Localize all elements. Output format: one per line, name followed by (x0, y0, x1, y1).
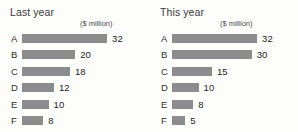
category-label: C (158, 67, 172, 77)
bar-value-label: 8 (198, 100, 203, 110)
bar-row: C18 (8, 63, 150, 80)
bar (22, 67, 70, 76)
bar-row: D10 (158, 80, 298, 97)
bar (172, 50, 252, 59)
bar-row: E10 (8, 96, 150, 113)
bar-row: C15 (158, 63, 298, 80)
unit-label-this-year: ($ million) (220, 19, 253, 28)
bar (172, 34, 257, 43)
category-label: D (8, 83, 22, 93)
bar (22, 100, 49, 109)
bar (172, 116, 185, 125)
bar-value-label: 18 (75, 67, 86, 77)
bar-rows-last-year: A32B20C18D12E10F8 (8, 30, 150, 129)
chart-title-last-year: Last year (10, 6, 54, 18)
category-label: E (158, 100, 172, 110)
bar-row: F8 (8, 113, 150, 130)
category-label: B (8, 50, 22, 60)
bar-row: D12 (8, 80, 150, 97)
bar-row: E8 (158, 96, 298, 113)
bar (172, 67, 212, 76)
category-label: C (8, 67, 22, 77)
bar-value-label: 12 (59, 83, 70, 93)
bar-value-label: 20 (80, 50, 91, 60)
bar-row: B20 (8, 47, 150, 64)
bar-value-label: 32 (262, 34, 273, 44)
bar-rows-this-year: A32B30C15D10E8F5 (158, 30, 298, 129)
chart-panel-last-year: Last year ($ million) A32B20C18D12E10F8 (8, 0, 150, 132)
category-label: E (8, 100, 22, 110)
bar-value-label: 15 (217, 67, 228, 77)
category-label: A (158, 34, 172, 44)
category-label: B (158, 50, 172, 60)
bar (22, 83, 54, 92)
category-label: F (8, 116, 22, 126)
bar-value-label: 10 (204, 83, 215, 93)
bar-value-label: 32 (112, 34, 123, 44)
bar-row: A32 (8, 30, 150, 47)
chart-panel-this-year: This year ($ million) A32B30C15D10E8F5 (158, 0, 298, 132)
chart-title-this-year: This year (160, 6, 204, 18)
bar (22, 116, 43, 125)
bar (172, 83, 199, 92)
bar-row: B30 (158, 47, 298, 64)
bar-value-label: 30 (257, 50, 268, 60)
category-label: F (158, 116, 172, 126)
bar-value-label: 10 (54, 100, 65, 110)
bar-value-label: 8 (48, 116, 53, 126)
unit-label-last-year: ($ million) (80, 19, 113, 28)
category-label: A (8, 34, 22, 44)
bar (22, 50, 75, 59)
bar-row: F5 (158, 113, 298, 130)
category-label: D (158, 83, 172, 93)
bar (22, 34, 107, 43)
bar-value-label: 5 (190, 116, 195, 126)
chart-figure: Last year ($ million) A32B20C18D12E10F8 … (0, 0, 298, 132)
bar-row: A32 (158, 30, 298, 47)
bar (172, 100, 193, 109)
